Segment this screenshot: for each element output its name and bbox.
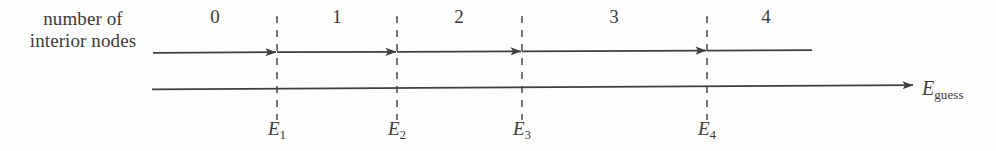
interval-count-1: 1 [317,6,357,28]
tick-label-e3: E3 [494,118,550,142]
node-axis-segment-2 [397,51,521,52]
tick-label-e4: E4 [679,118,735,142]
tick-label-e1: E1 [249,118,305,142]
x-axis-label: Eguess [922,77,964,102]
tick-label-e2-subscript: 2 [400,127,407,142]
caption-line-2: interior nodes [16,30,150,52]
energy-axis [152,85,913,89]
x-axis-label-subscript: guess [934,87,963,102]
tick-label-e1-subscript: 1 [280,127,287,142]
interval-count-2: 2 [439,6,479,28]
tick-label-e2-base: E [388,118,400,139]
interval-count-3: 3 [594,6,634,28]
tick-label-e3-base: E [513,118,525,139]
eigenvalue-dashed-lines [277,16,707,120]
tick-label-e2: E2 [369,118,425,142]
tick-label-e4-base: E [698,118,710,139]
node-axis-segment-3 [522,51,706,52]
interval-count-0: 0 [195,6,235,28]
node-count-vs-energy-diagram: number of interior nodes 0 1 2 3 4 E1 E2… [0,0,996,151]
node-count-axis [153,50,812,53]
energy-axis-line [152,85,913,89]
tick-label-e1-base: E [268,118,280,139]
x-axis-label-base: E [922,77,934,99]
node-count-caption: number of interior nodes [16,8,150,53]
tick-label-e4-subscript: 4 [710,127,717,142]
node-axis-segment-0 [153,52,276,53]
interval-count-4: 4 [746,6,786,28]
caption-line-1: number of [43,8,123,29]
tick-label-e3-subscript: 3 [525,127,532,142]
